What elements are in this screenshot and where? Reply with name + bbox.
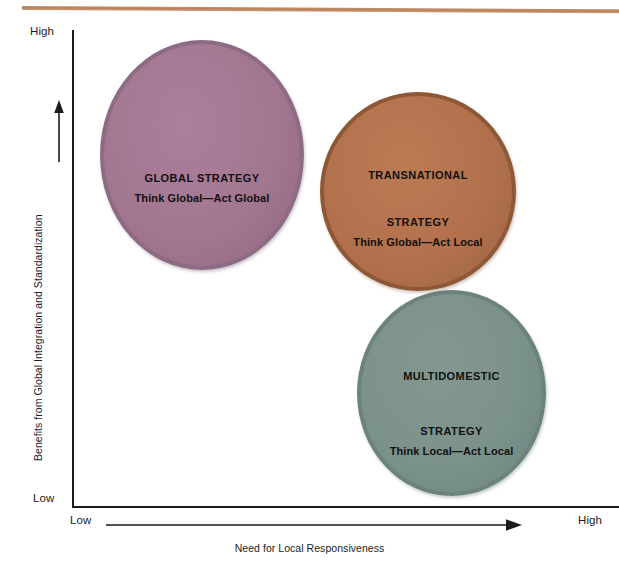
y-axis-low-label: Low xyxy=(33,492,54,504)
x-axis-title: Need for Local Responsiveness xyxy=(0,542,619,554)
x-axis-arrow-icon xyxy=(106,518,522,532)
bubble-transnational-strategy[interactable]: TRANSNATIONAL STRATEGY Think Global—Act … xyxy=(320,92,516,291)
bubble-global-tagline: Think Global—Act Global xyxy=(135,192,270,205)
bubble-multidomestic-title-line2: STRATEGY xyxy=(420,383,483,438)
y-axis-line xyxy=(72,30,74,508)
bubble-transnational-title-line1: TRANSNATIONAL xyxy=(368,135,468,182)
y-axis-high-label: High xyxy=(30,25,54,37)
bubble-multidomestic-title-line1: MULTIDOMESTIC xyxy=(403,328,500,383)
bubble-multidomestic-tagline: Think Local—Act Local xyxy=(390,445,514,458)
bubble-global-title: GLOBAL STRATEGY xyxy=(144,106,259,185)
bubble-multidomestic-strategy[interactable]: MULTIDOMESTIC STRATEGY Think Local—Act L… xyxy=(357,290,546,496)
x-axis-line xyxy=(72,506,619,508)
x-axis-low-label: Low xyxy=(70,514,91,526)
bubble-global-strategy[interactable]: GLOBAL STRATEGY Think Global—Act Global xyxy=(100,40,304,270)
y-axis-title-text: Benefits from Global Integration and Sta… xyxy=(32,214,44,461)
y-axis-arrow-icon xyxy=(52,100,66,162)
bubble-transnational-title-line2: STRATEGY xyxy=(387,182,450,229)
x-axis-high-label: High xyxy=(578,514,602,526)
bubble-transnational-tagline: Think Global—Act Local xyxy=(353,236,482,249)
strategy-matrix-figure: High Low Low High Benefits from Global I… xyxy=(0,0,619,570)
y-axis-title: Benefits from Global Integration and Sta… xyxy=(29,121,47,461)
header-rule xyxy=(22,6,619,13)
